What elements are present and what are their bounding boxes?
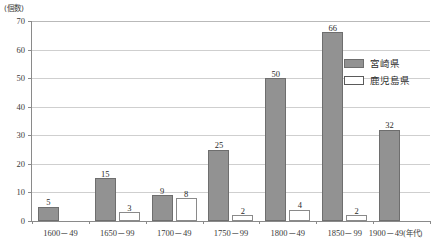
x-axis-tick <box>146 221 147 224</box>
legend-label: 宮崎県 <box>370 56 400 70</box>
y-axis-unit-caption: (個数) <box>4 2 24 13</box>
legend-item[interactable]: 鹿児島県 <box>344 73 410 87</box>
x-axis-tick <box>89 221 90 224</box>
bar-group: 252 <box>203 21 260 221</box>
x-axis-label: 1850－99 <box>327 226 362 238</box>
y-axis-label: 30 <box>17 130 26 140</box>
bar-value-label: 32 <box>385 121 394 130</box>
x-axis-tick <box>32 221 33 224</box>
y-axis-unit-text: (個数) <box>4 4 24 13</box>
plot-area: 01020304050607051600－491531650－99981700－… <box>31 21 430 222</box>
x-axis-tick <box>316 221 317 224</box>
bar-value-label: 66 <box>328 24 337 33</box>
x-axis-tick <box>203 221 204 224</box>
x-axis-label: 1600－49 <box>43 226 78 238</box>
bar-kagoshima[interactable]: 8 <box>176 198 197 221</box>
x-axis-label: 1750－99 <box>214 226 249 238</box>
x-axis-unit-caption: (年代) <box>403 229 422 238</box>
x-axis-tick <box>373 221 374 224</box>
x-axis-label: 1650－99 <box>100 226 135 238</box>
y-axis-label: 0 <box>21 216 25 226</box>
bar-value-label: 25 <box>215 141 224 150</box>
y-axis-label: 70 <box>17 16 26 26</box>
legend-item[interactable]: 宮崎県 <box>344 56 410 70</box>
bar-value-label: 5 <box>46 198 50 207</box>
bar-miyazaki[interactable]: 9 <box>152 195 173 221</box>
x-axis-label: 1800－49 <box>271 226 306 238</box>
bar-miyazaki[interactable]: 66 <box>322 32 343 221</box>
bar-group: 153 <box>89 21 146 221</box>
bar-value-label: 9 <box>160 187 164 196</box>
legend-swatch-miyazaki <box>344 59 364 68</box>
bar-chart: (個数) 01020304050607051600－491531650－9998… <box>0 0 443 249</box>
y-axis-label: 10 <box>17 187 26 197</box>
bar-miyazaki[interactable]: 25 <box>208 150 229 221</box>
bar-miyazaki[interactable]: 32 <box>379 130 400 221</box>
bar-value-label: 4 <box>298 201 302 210</box>
chart-legend: 宮崎県鹿児島県 <box>344 56 410 87</box>
bar-group: 662 <box>316 21 373 221</box>
bar-value-label: 8 <box>184 190 188 199</box>
bar-kagoshima[interactable]: 3 <box>119 212 140 221</box>
y-axis-label: 50 <box>17 73 26 83</box>
legend-label: 鹿児島県 <box>370 73 410 87</box>
bar-miyazaki[interactable]: 50 <box>265 78 286 221</box>
y-axis-label: 20 <box>17 159 26 169</box>
bar-value-label: 50 <box>272 70 281 79</box>
bar-group: 32 <box>373 21 430 221</box>
bar-value-label: 3 <box>127 204 131 213</box>
x-axis-tick <box>430 221 431 224</box>
y-axis-label: 60 <box>17 45 26 55</box>
bar-kagoshima[interactable]: 2 <box>232 215 253 221</box>
x-axis-label: 1900－49(年代) <box>369 226 423 238</box>
bar-value-label: 2 <box>241 207 245 216</box>
bar-group: 98 <box>146 21 203 221</box>
plot-inner: 01020304050607051600－491531650－99981700－… <box>32 21 430 221</box>
y-axis-label: 40 <box>17 102 26 112</box>
x-axis-tick <box>259 221 260 224</box>
legend-swatch-kagoshima <box>344 76 364 85</box>
bar-group: 504 <box>259 21 316 221</box>
bar-kagoshima[interactable]: 4 <box>289 210 310 221</box>
bar-value-label: 15 <box>101 170 110 179</box>
bar-value-label: 2 <box>355 207 359 216</box>
bar-kagoshima[interactable]: 2 <box>346 215 367 221</box>
bar-group: 5 <box>32 21 89 221</box>
bar-miyazaki[interactable]: 5 <box>38 207 59 221</box>
x-axis-label: 1700－49 <box>157 226 192 238</box>
bar-miyazaki[interactable]: 15 <box>95 178 116 221</box>
